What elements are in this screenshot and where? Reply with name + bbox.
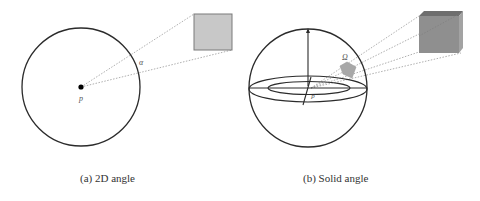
projection-line-upper — [81, 14, 194, 87]
cube-object — [419, 11, 463, 53]
caption-b: (b) Solid angle — [303, 172, 368, 184]
projection-line-lower — [81, 50, 232, 87]
cube-front-face — [419, 16, 459, 53]
panel-a-2d-angle: p α — [22, 14, 232, 146]
solid-angle-patch — [340, 62, 356, 78]
omega-label: Ω — [342, 53, 348, 62]
cube-side-face — [459, 11, 463, 53]
diagram-canvas: p α Ω p — [0, 0, 480, 201]
caption-a: (a) 2D angle — [80, 172, 135, 184]
point-p-label: p — [78, 94, 83, 103]
panel-b-solid-angle: Ω p — [249, 11, 463, 147]
angle-alpha-label: α — [139, 58, 144, 67]
square-object — [194, 14, 232, 50]
cube-top-face — [419, 11, 463, 16]
point-p — [78, 84, 83, 89]
point-p-label-b: p — [310, 92, 315, 100]
